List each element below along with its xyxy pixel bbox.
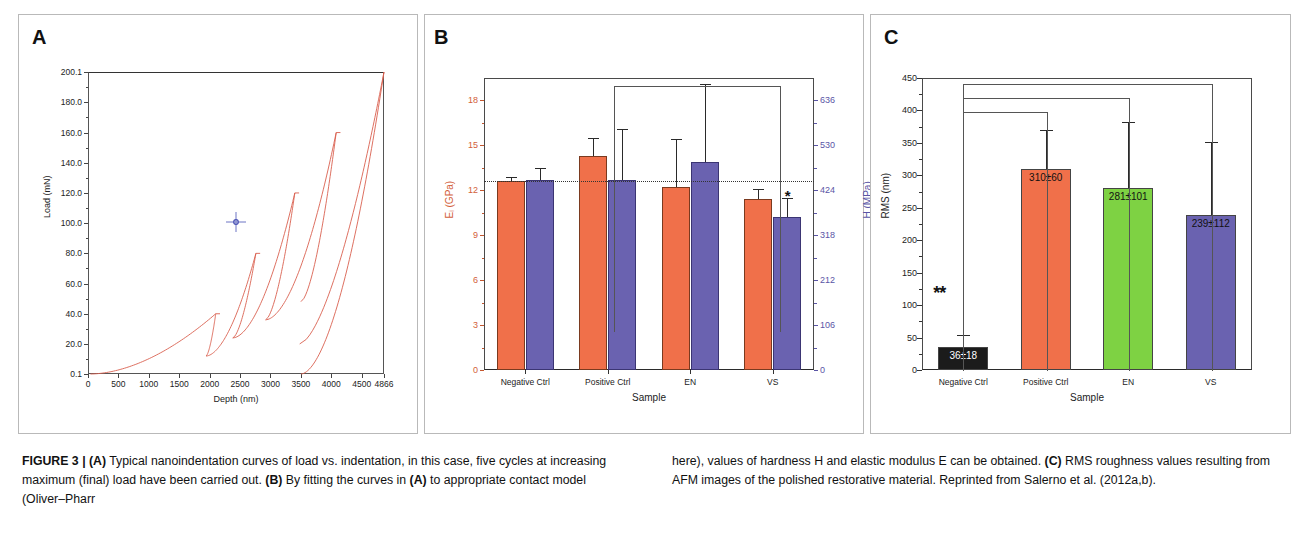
panel-b-left-tick bbox=[480, 100, 484, 101]
panel-b-left-axis-title: Eᵢ (GPa) bbox=[444, 181, 455, 219]
panel-c-y-tick bbox=[917, 273, 922, 274]
panel-b-left-minor-tick bbox=[482, 168, 485, 169]
panel-c-y-tick-label: 100 bbox=[902, 301, 917, 310]
panel-b-x-tick bbox=[525, 370, 526, 374]
panel-b-category-label: EN bbox=[684, 377, 696, 387]
panel-c-y-tick bbox=[917, 208, 922, 209]
panel-b-right-tick bbox=[814, 100, 818, 101]
panel-a-y-tick-label: 160.0 bbox=[61, 129, 82, 137]
panel-c-y-tick-label: 200 bbox=[902, 236, 917, 245]
panel-c-y-tick-label: 250 bbox=[902, 203, 917, 212]
panel-a-x-tick bbox=[210, 374, 211, 378]
panel-c-plot: 050100150200250300350400450 36±18310±602… bbox=[922, 78, 1252, 370]
panel-c-y-minor-tick bbox=[919, 159, 922, 160]
panel-a-curve-segment bbox=[266, 133, 337, 320]
panel-b-left-tick-label: 9 bbox=[473, 231, 478, 240]
panel-b-errorbar-cap-h bbox=[535, 168, 546, 169]
panel-a-y-tick-label: 120.0 bbox=[61, 189, 82, 197]
panel-b-category-label: VS bbox=[767, 377, 778, 387]
panel-c-y-tick bbox=[917, 175, 922, 176]
panel-b-category-label: Negative Ctrl bbox=[501, 377, 550, 387]
panel-a-x-tick bbox=[384, 374, 385, 378]
panel-b-left-tick bbox=[480, 325, 484, 326]
figure-caption-left-column: FIGURE 3 | (A) Typical nanoindentation c… bbox=[22, 452, 632, 509]
panel-b-right-minor-tick bbox=[814, 303, 817, 304]
panel-b-left-minor-tick bbox=[482, 213, 485, 214]
panel-b-right-tick-label: 318 bbox=[820, 231, 835, 240]
panel-b-left-tick-label: 3 bbox=[473, 321, 478, 330]
panel-b-bar-er bbox=[497, 181, 525, 370]
panel-a-x-tick bbox=[270, 374, 271, 378]
panel-a-y-tick-label: 100.0 bbox=[61, 219, 82, 227]
panel-a-x-tick bbox=[301, 374, 302, 378]
panel-b-right-tick bbox=[814, 145, 818, 146]
panel-b-left-tick bbox=[480, 145, 484, 146]
panel-b-right-tick-label: 0 bbox=[820, 366, 825, 375]
panel-a-y-tick-label: 40.0 bbox=[65, 310, 82, 318]
panel-c-y-tick bbox=[917, 110, 922, 111]
panel-b-category-label: Positive Ctrl bbox=[585, 377, 630, 387]
panel-b-left-minor-tick bbox=[482, 348, 485, 349]
panel-b-right-minor-tick bbox=[814, 348, 817, 349]
panel-a-plot: 200.1180.0160.0140.0120.0100.080.060.040… bbox=[88, 72, 384, 374]
panel-b-x-tick bbox=[690, 370, 691, 374]
panel-c-y-tick bbox=[917, 305, 922, 306]
figure-3: A 200.1180.0160.0140.0120.0100.080.060.0… bbox=[0, 0, 1309, 542]
panel-c-y-minor-tick bbox=[919, 224, 922, 225]
panel-b-right-minor-tick bbox=[814, 258, 817, 259]
panel-c-category-label: EN bbox=[1122, 377, 1134, 387]
panel-c-y-tick-label: 0 bbox=[912, 366, 917, 375]
panel-a-letter: A bbox=[32, 26, 46, 49]
panel-a-x-tick-label: 1000 bbox=[139, 380, 158, 388]
panel-c-category-label: Positive Ctrl bbox=[1023, 377, 1068, 387]
panel-c-significance-stars: ** bbox=[933, 284, 945, 302]
panel-b-right-tick bbox=[814, 280, 818, 281]
panel-c-y-minor-tick bbox=[919, 192, 922, 193]
panel-c-category-label: Negative Ctrl bbox=[939, 377, 988, 387]
panel-a-x-tick bbox=[362, 374, 363, 378]
panel-b-significance-bracket bbox=[614, 86, 781, 332]
panel-b-bar-er bbox=[579, 156, 607, 370]
panel-c-y-tick bbox=[917, 338, 922, 339]
panel-a-y-tick-label: 200.1 bbox=[61, 68, 82, 76]
panel-c: C 050100150200250300350400450 36±18310±6… bbox=[870, 14, 1291, 434]
panel-b-errorbar-er bbox=[593, 138, 594, 156]
panel-b-left-minor-tick bbox=[482, 258, 485, 259]
panel-a-y-tick-label: 180.0 bbox=[61, 98, 82, 106]
panel-a-x-tick bbox=[149, 374, 150, 378]
panel-c-y-tick bbox=[917, 240, 922, 241]
panel-c-y-tick-label: 400 bbox=[902, 106, 917, 115]
panel-a-y-tick-label: 20.0 bbox=[65, 340, 82, 348]
panel-c-y-minor-tick bbox=[919, 127, 922, 128]
panel-c-y-axis-title: RMS (nm) bbox=[880, 173, 891, 219]
panel-a-x-tick-label: 0 bbox=[86, 380, 91, 388]
panel-c-y-tick-label: 300 bbox=[902, 171, 917, 180]
panel-b-left-minor-tick bbox=[482, 123, 485, 124]
panel-c-y-minor-tick bbox=[919, 354, 922, 355]
panel-c-y-tick bbox=[917, 143, 922, 144]
panel-a-curve-segment bbox=[206, 253, 256, 356]
panel-b-right-tick-label: 636 bbox=[820, 96, 835, 105]
panel-b-right-tick-label: 530 bbox=[820, 141, 835, 150]
panel-a-curve-segment bbox=[90, 314, 215, 374]
panel-a-y-tick-label: 80.0 bbox=[65, 249, 82, 257]
panel-c-category-label: VS bbox=[1205, 377, 1216, 387]
panel-b-x-axis-title: Sample bbox=[632, 392, 666, 403]
panel-b-bar-h bbox=[526, 180, 554, 370]
panel-b-x-tick bbox=[608, 370, 609, 374]
panel-b-errorbar-cap-er bbox=[506, 177, 517, 178]
panel-b-left-tick-label: 18 bbox=[468, 96, 478, 105]
panel-a-x-tick-label: 3000 bbox=[261, 380, 280, 388]
panel-b-x-tick bbox=[773, 370, 774, 374]
panel-b-errorbar-cap-er bbox=[588, 138, 599, 139]
panel-c-y-tick-label: 150 bbox=[902, 268, 917, 277]
panel-b-right-tick bbox=[814, 370, 818, 371]
panel-a-x-tick-label: 1500 bbox=[170, 380, 189, 388]
panel-a-x-tick-label: 4000 bbox=[322, 380, 341, 388]
panel-b-left-tick bbox=[480, 235, 484, 236]
panel-a-x-tick bbox=[179, 374, 180, 378]
panel-a-y-tick-label: 0.1 bbox=[70, 370, 82, 378]
panel-b-errorbar-h bbox=[540, 168, 541, 180]
panel-a-x-axis-title: Depth (nm) bbox=[213, 394, 258, 404]
panel-c-letter: C bbox=[884, 26, 898, 49]
